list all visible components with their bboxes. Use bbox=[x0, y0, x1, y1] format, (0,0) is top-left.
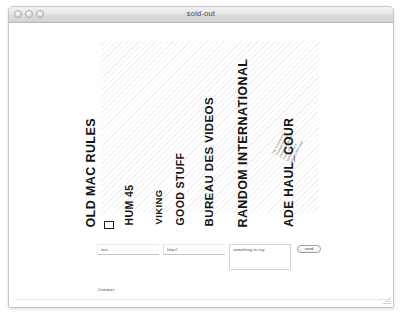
submission-form: send bbox=[97, 244, 321, 270]
page-bottom-rule bbox=[15, 299, 389, 300]
window-title: sold-out bbox=[9, 9, 393, 18]
resize-grip-icon[interactable] bbox=[382, 296, 391, 305]
message-textarea[interactable] bbox=[229, 244, 291, 270]
browser-window: sold-out OLD MAC RULESHUM 45VIKINGGOOD S… bbox=[8, 6, 394, 308]
headline-word[interactable]: OLD MAC RULES bbox=[85, 118, 98, 227]
headline-word[interactable]: RANDOM INTERNATIONAL bbox=[237, 59, 250, 228]
page-content: OLD MAC RULESHUM 45VIKINGGOOD STUFFBUREA… bbox=[9, 23, 393, 307]
headline-word[interactable]: BUREAU DES VIDEOS bbox=[204, 97, 216, 227]
page-viewport: OLD MAC RULESHUM 45VIKINGGOOD STUFFBUREA… bbox=[9, 23, 393, 307]
contact-link[interactable]: Contact bbox=[98, 287, 115, 292]
headline-word[interactable]: GOOD STUFF bbox=[175, 153, 186, 226]
send-button[interactable]: send bbox=[297, 245, 321, 253]
text-input[interactable] bbox=[97, 244, 159, 255]
url-input[interactable] bbox=[163, 244, 225, 255]
window-titlebar[interactable]: sold-out bbox=[9, 7, 393, 23]
headline-word[interactable]: VIKING bbox=[154, 189, 164, 224]
selection-checkbox[interactable] bbox=[104, 221, 114, 229]
headline-word[interactable]: HUM 45 bbox=[124, 185, 135, 226]
